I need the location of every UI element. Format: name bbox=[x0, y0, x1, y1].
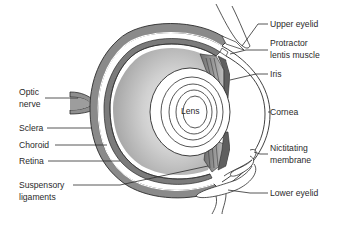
iris-label: Iris bbox=[270, 68, 281, 80]
nictitating-membrane-label: Nictitating membrane bbox=[270, 142, 311, 166]
protractor-lentis-muscle-label: Protractor lentis muscle bbox=[270, 37, 320, 61]
upper-eyelid-label: Upper eyelid bbox=[270, 18, 318, 30]
upper-eyelid-shape bbox=[216, 4, 250, 56]
optic-nerve-label: Optic nerve bbox=[19, 86, 41, 110]
choroid-label: Choroid bbox=[19, 139, 49, 151]
retina-label: Retina bbox=[19, 155, 44, 167]
sclera-label: Sclera bbox=[19, 122, 43, 134]
lower-eyelid-label: Lower eyelid bbox=[270, 187, 318, 199]
cornea-label: Cornea bbox=[270, 106, 298, 118]
lens-label: Lens bbox=[181, 106, 200, 116]
anterior-chamber bbox=[226, 60, 262, 168]
suspensory-ligaments-label: Suspensory ligaments bbox=[19, 179, 64, 203]
